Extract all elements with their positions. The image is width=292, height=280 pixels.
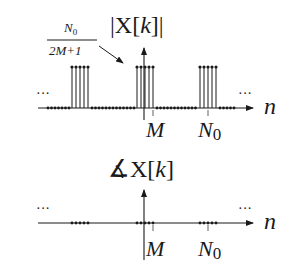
dft-magnitude-phase-diagram: |X[k]| N0 2M+1 ··· ··· — [0, 0, 292, 280]
phase-plot: ∡X[k] ··· ··· n M N0 — [36, 156, 276, 263]
height-label-numerator: N0 — [63, 20, 78, 37]
magnitude-title: |X[k]| — [110, 12, 164, 38]
phase-x-label: n — [264, 208, 276, 234]
height-label-denominator: 2M+1 — [49, 43, 82, 58]
magnitude-label-n0: N0 — [197, 117, 221, 144]
phase-title: ∡X[k] — [108, 156, 174, 182]
stem-group-right — [200, 67, 216, 108]
magnitude-label-m: M — [145, 117, 166, 142]
phase-label-m: M — [145, 236, 166, 261]
stem-group-left — [72, 67, 88, 108]
magnitude-plot: |X[k]| N0 2M+1 ··· ··· — [36, 12, 276, 144]
phase-ellipsis-right: ··· — [238, 201, 252, 216]
magnitude-x-label: n — [264, 93, 276, 119]
stem-group-center — [137, 67, 153, 108]
pointer-arrow — [99, 46, 123, 63]
ellipsis-right: ··· — [238, 86, 252, 101]
ellipsis-left: ··· — [36, 86, 50, 101]
phase-ellipsis-left: ··· — [36, 201, 50, 216]
phase-label-n0: N0 — [197, 236, 221, 263]
